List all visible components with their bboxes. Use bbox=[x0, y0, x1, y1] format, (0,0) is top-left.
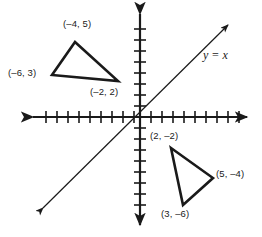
label-y-equals-x: y = x bbox=[203, 49, 228, 61]
triangle-upper-left bbox=[52, 42, 118, 81]
coordinate-plane-figure: (–4, 5) (–6, 3) (–2, 2) (2, –2) (5, –4) … bbox=[0, 0, 262, 237]
triangle-lower-right bbox=[171, 148, 213, 205]
label-neg2-2: (–2, 2) bbox=[90, 87, 118, 97]
label-2-neg2: (2, –2) bbox=[150, 131, 178, 141]
label-5-neg4: (5, –4) bbox=[216, 169, 244, 179]
label-neg4-5: (–4, 5) bbox=[63, 19, 91, 29]
graph-canvas bbox=[0, 0, 262, 237]
label-3-neg6: (3, –6) bbox=[161, 209, 189, 219]
label-neg6-3: (–6, 3) bbox=[8, 68, 36, 78]
y-axis bbox=[134, 14, 146, 225]
